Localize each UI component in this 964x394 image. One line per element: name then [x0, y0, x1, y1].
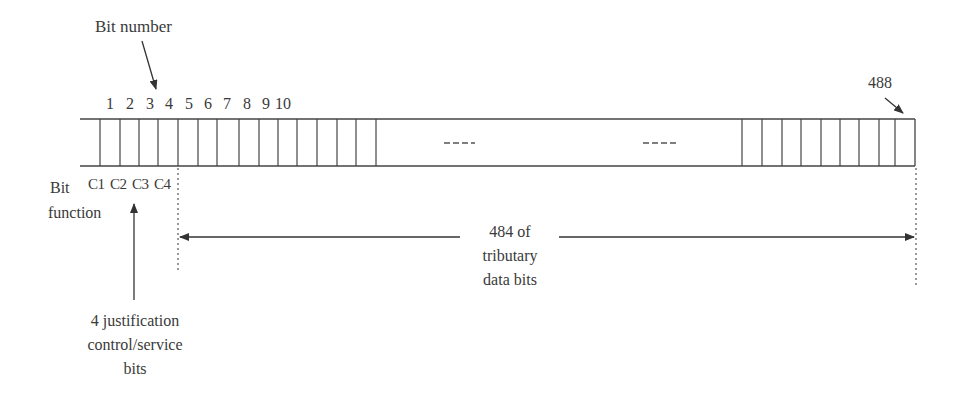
- frame-diagram: [0, 0, 964, 394]
- bit-function-c2: C2: [110, 177, 127, 192]
- bit-number-label: Bit number: [95, 18, 172, 35]
- bit-number: 1: [103, 96, 117, 112]
- bit-function-c3: C3: [132, 177, 149, 192]
- bit-frame: [80, 119, 915, 166]
- bit-number: 8: [240, 96, 254, 112]
- left-bit-cells: [100, 119, 376, 166]
- bit-number: 10: [275, 96, 291, 112]
- bit-function-label-line2: function: [48, 205, 101, 221]
- bit-function-c4: C4: [154, 177, 171, 192]
- bit-number: 2: [123, 96, 137, 112]
- last-bit-arrow: [885, 98, 903, 113]
- bit-number: 9: [259, 96, 273, 112]
- bit-function-c1: C1: [88, 177, 105, 192]
- bit-function-label-line1: Bit: [50, 180, 70, 196]
- bit-number: 5: [182, 96, 196, 112]
- bit-number: 7: [220, 96, 234, 112]
- last-bit-label: 488: [868, 75, 892, 91]
- bit-number: 4: [162, 96, 176, 112]
- right-bit-cells: [742, 119, 895, 166]
- bit-number: 6: [201, 96, 215, 112]
- bit-number: 3: [143, 96, 157, 112]
- bit-number-arrow: [142, 41, 156, 89]
